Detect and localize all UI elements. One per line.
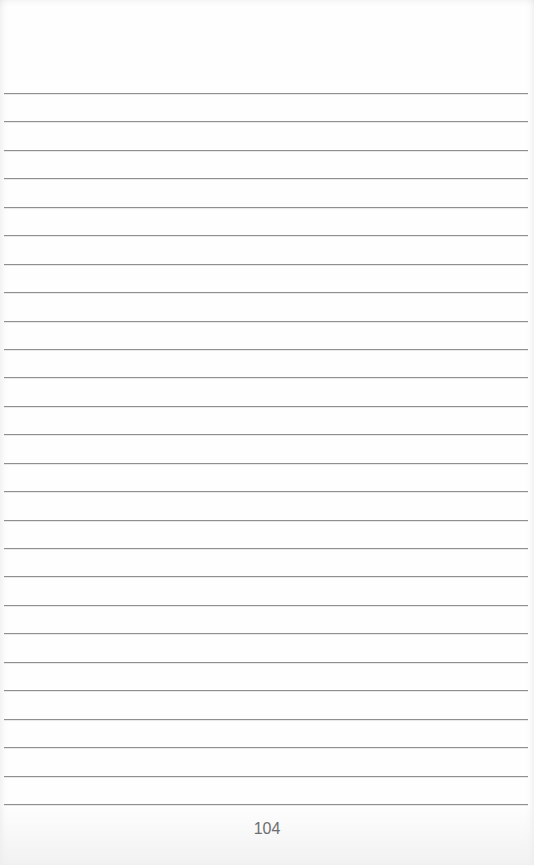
ruled-line xyxy=(4,776,528,777)
ruled-line xyxy=(4,264,528,265)
ruled-line xyxy=(4,434,528,435)
ruled-line xyxy=(4,93,528,94)
ruled-line xyxy=(4,235,528,236)
ruled-line xyxy=(4,121,528,122)
ruled-line xyxy=(4,321,528,322)
ruled-line xyxy=(4,662,528,663)
ruled-line xyxy=(4,719,528,720)
ruled-line xyxy=(4,520,528,521)
ruled-line xyxy=(4,633,528,634)
ruled-line xyxy=(4,690,528,691)
ruled-line xyxy=(4,576,528,577)
ruled-line xyxy=(4,207,528,208)
ruled-line xyxy=(4,377,528,378)
page-number: 104 xyxy=(0,820,534,838)
ruled-line xyxy=(4,292,528,293)
ruled-line xyxy=(4,406,528,407)
ruled-line xyxy=(4,150,528,151)
notebook-page: 104 xyxy=(0,0,534,865)
ruled-line xyxy=(4,178,528,179)
ruled-line xyxy=(4,349,528,350)
ruled-line xyxy=(4,491,528,492)
ruled-line xyxy=(4,548,528,549)
ruled-line xyxy=(4,605,528,606)
ruled-line xyxy=(4,747,528,748)
ruled-line xyxy=(4,463,528,464)
